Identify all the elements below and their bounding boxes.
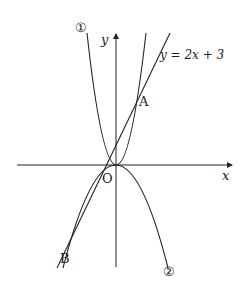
- line-equation-label: y = 2x + 3: [159, 48, 225, 62]
- parabola-1-marker: ①: [75, 20, 87, 35]
- origin-label: O: [102, 171, 113, 186]
- point-a-label: A: [138, 94, 149, 109]
- line-y-2x-3: [57, 33, 170, 268]
- x-axis-label: x: [222, 168, 230, 183]
- y-axis-label: y: [100, 32, 109, 47]
- function-graph-diagram: y x O ① ② ② ② ② y = 2x + 3 A B ②: [0, 0, 243, 299]
- parabola-2-marker-text: ②: [163, 265, 175, 278]
- graph-canvas: y x O ① ② ② ② ② y = 2x + 3 A B: [0, 0, 243, 299]
- point-b-label: B: [60, 251, 70, 266]
